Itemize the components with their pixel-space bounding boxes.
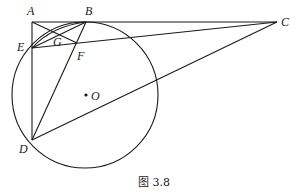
label-a: A [26, 4, 35, 18]
label-o: O [91, 89, 100, 103]
label-f: F [76, 49, 85, 63]
label-g: G [53, 35, 62, 49]
geometry-figure: A B C E G F O D 图 3.8 [0, 0, 303, 196]
figure-caption: 图 3.8 [138, 176, 170, 189]
label-c: C [281, 15, 290, 29]
label-d: D [18, 142, 28, 156]
label-b: B [85, 4, 93, 18]
label-e: E [16, 40, 25, 54]
center-dot [84, 93, 87, 96]
